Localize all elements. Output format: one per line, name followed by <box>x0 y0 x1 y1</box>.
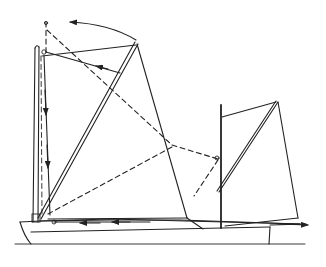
swing-arrow <box>70 22 136 40</box>
sailboat-rigging-diagram <box>0 0 326 267</box>
main-mast <box>32 46 40 222</box>
halyard-down <box>44 56 50 215</box>
mizzen-sprit <box>217 101 278 192</box>
mast-dashed-line <box>41 56 42 215</box>
dashed-control-lines <box>47 30 219 214</box>
brail-line <box>46 52 120 73</box>
mizzen-sail <box>222 102 298 226</box>
hull <box>20 219 308 244</box>
